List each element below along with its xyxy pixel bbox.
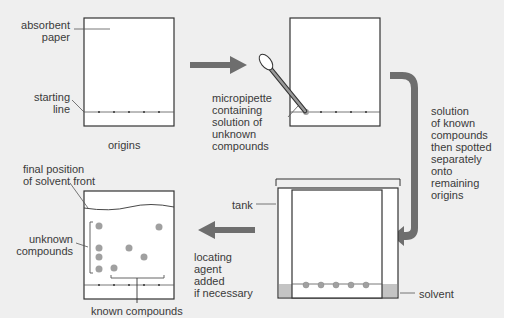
tank [256,179,415,298]
micropipette-label: micropipette containing solution of unkn… [212,92,272,152]
solvent-front-label: final position of solvent front [23,163,95,187]
origins-label: origins [108,139,140,151]
known-solution-step-label: solution of known compounds then spotted… [431,105,492,201]
arrow-right-icon [190,56,247,74]
tank-label: tank [232,199,253,211]
absorbent-paper-label: absorbent paper [20,19,70,43]
starting-line-label: starting line [20,91,70,115]
panel-4-chromatogram [70,183,174,303]
solvent-label: solvent [419,288,454,300]
known-compounds-label: known compounds [91,305,183,317]
arrow-left-icon [198,221,255,239]
panel-1-paper [72,18,174,126]
locating-agent-label: locating agent added if necessary [194,251,253,299]
unknown-compounds-label: unknown compounds [15,233,73,257]
chromatography-diagram: absorbent paper starting line origins mi… [0,0,512,332]
